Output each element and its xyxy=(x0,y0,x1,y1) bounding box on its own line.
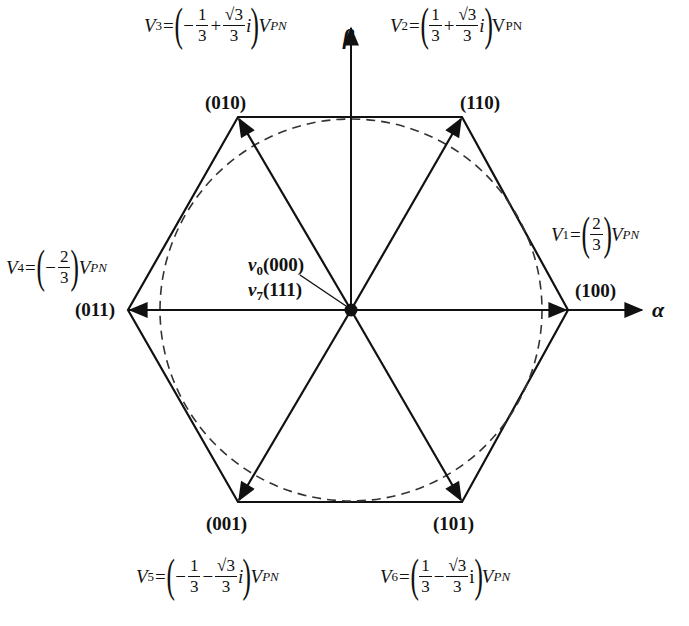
vector-v6-arrow xyxy=(351,310,461,500)
v5-subscript: 5 xyxy=(148,570,155,583)
v1-unit: V xyxy=(611,225,623,244)
v5-real-fraction: 13 xyxy=(188,557,201,596)
v3-subscript: 3 xyxy=(156,19,163,32)
v5-imag-fraction: √33 xyxy=(215,557,237,596)
v1-subscript: 1 xyxy=(563,228,570,241)
beta-axis-label: β xyxy=(343,26,354,48)
v4-unit: V xyxy=(79,258,91,277)
v6-operator: − xyxy=(434,567,445,586)
v2-real-fraction: 13 xyxy=(429,6,442,45)
v7-state: (111) xyxy=(263,279,302,300)
state-label-v6: (101) xyxy=(433,514,474,533)
v3-operator: + xyxy=(210,16,221,35)
alpha-axis-label: α xyxy=(652,299,664,321)
state-label-v3: (010) xyxy=(205,93,246,112)
v2-unit: V xyxy=(492,16,506,35)
v4-subscript: 4 xyxy=(18,261,25,274)
v6-symbol: V xyxy=(380,567,392,586)
equation-v2: V2 =( 13 + √33 i ) VPN xyxy=(390,6,522,45)
state-label-v1: (100) xyxy=(575,281,616,300)
v2-imag-fraction: √33 xyxy=(456,6,478,45)
origin-dot xyxy=(345,304,358,317)
vector-v2-arrow xyxy=(351,119,461,310)
zero-vector-label-v7: v7(111) xyxy=(248,280,302,302)
v2-operator: + xyxy=(444,16,455,35)
v2-subscript: 2 xyxy=(402,19,409,32)
v5-symbol: V xyxy=(136,567,148,586)
vector-v5-arrow xyxy=(239,310,351,500)
equation-v5: V5 =( − 13 − √33 i ) VPN xyxy=(136,557,279,596)
state-label-v4: (011) xyxy=(75,300,115,319)
v6-unit: V xyxy=(482,567,494,586)
v0-state: (000) xyxy=(263,254,304,275)
v3-symbol: V xyxy=(144,16,156,35)
state-label-v2: (110) xyxy=(460,93,500,112)
v1-real-fraction: 23 xyxy=(590,215,603,254)
v5-unit: V xyxy=(251,567,263,586)
v6-imag-fraction: √33 xyxy=(446,557,468,596)
equation-v1: V1 =( 23 ) VPN xyxy=(551,215,639,254)
v5-operator: − xyxy=(202,567,213,586)
space-vector-diagram: β α (100) (110) (010) (011) (001) (101) … xyxy=(0,0,689,626)
v4-sign: − xyxy=(45,258,56,277)
equation-v4: V4 =( − 23 ) VPN xyxy=(6,248,107,287)
equation-v3: V3 =( − 13 + √33 i ) VPN xyxy=(144,6,287,45)
v5-sign: − xyxy=(175,567,186,586)
v4-symbol: V xyxy=(6,258,18,277)
v6-subscript: 6 xyxy=(392,570,399,583)
v3-unit: V xyxy=(259,16,271,35)
equation-v6: V6 =( 13 − √33 i ) VPN xyxy=(380,557,510,596)
v2-symbol: V xyxy=(390,16,402,35)
v3-sign: − xyxy=(183,16,194,35)
v1-symbol: V xyxy=(551,225,563,244)
zero-vector-label-v0: v0(000) xyxy=(248,255,304,277)
v3-real-fraction: 13 xyxy=(196,6,209,45)
v6-real-fraction: 13 xyxy=(419,557,432,596)
v4-real-fraction: 23 xyxy=(58,248,71,287)
v3-imag-fraction: √33 xyxy=(223,6,245,45)
state-label-v5: (001) xyxy=(206,514,247,533)
